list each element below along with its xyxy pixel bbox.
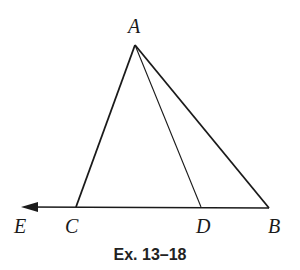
label-b: B xyxy=(268,215,280,237)
arrowhead-e-icon xyxy=(21,202,38,212)
label-a: A xyxy=(126,15,141,37)
figure-caption: Ex. 13–18 xyxy=(114,246,187,263)
triangle-diagram: A E C D B Ex. 13–18 xyxy=(0,0,300,270)
label-e: E xyxy=(13,215,26,237)
segment-ab xyxy=(135,45,269,208)
segment-ad xyxy=(135,45,201,207)
label-d: D xyxy=(195,215,211,237)
segment-ac xyxy=(76,45,135,207)
label-c: C xyxy=(65,215,79,237)
ray-ce xyxy=(26,207,269,208)
